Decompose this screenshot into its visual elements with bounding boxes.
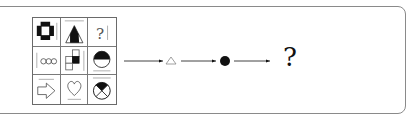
answer-question-mark: ? [283,44,297,70]
small-triangle-icon [166,57,176,64]
filled-dot-icon [220,56,230,66]
sequence-diagram [0,0,414,117]
